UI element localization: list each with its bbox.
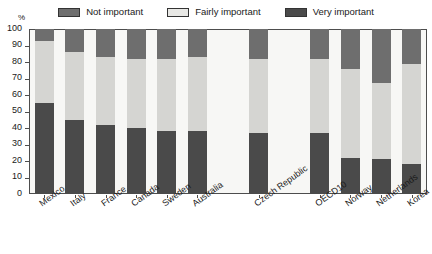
bar-group[interactable] — [157, 29, 176, 194]
bar-group[interactable] — [188, 29, 207, 194]
bar-segment-not-important[interactable] — [341, 29, 360, 69]
bar-segment-fairly-important[interactable] — [402, 64, 421, 165]
bar-segment-very-important[interactable] — [127, 128, 146, 194]
bar-segment-not-important[interactable] — [96, 29, 115, 57]
legend-swatch-not-important — [58, 8, 80, 17]
bar-segment-fairly-important[interactable] — [65, 52, 84, 120]
bar-segment-very-important[interactable] — [249, 133, 268, 194]
bar-group[interactable] — [402, 29, 421, 194]
bar-segment-very-important[interactable] — [157, 131, 176, 194]
bar-stack — [157, 29, 176, 194]
y-axis-unit-label: % — [18, 14, 25, 22]
y-tick-label: 80 — [12, 57, 22, 66]
bar-stack — [372, 29, 391, 194]
bar-segment-fairly-important[interactable] — [35, 41, 54, 104]
bar-group[interactable] — [341, 29, 360, 194]
bar-group[interactable] — [127, 29, 146, 194]
bar-group[interactable] — [65, 29, 84, 194]
bar-stack — [35, 29, 54, 194]
bar-segment-fairly-important[interactable] — [188, 57, 207, 131]
y-tick-label: 70 — [12, 73, 22, 82]
y-tick-label: 60 — [12, 90, 22, 99]
bar-segment-not-important[interactable] — [65, 29, 84, 52]
bar-segment-not-important[interactable] — [35, 29, 54, 41]
bar-segment-not-important[interactable] — [127, 29, 146, 59]
y-tick-label: 10 — [12, 172, 22, 181]
y-tick-label: 90 — [12, 40, 22, 49]
bar-segment-fairly-important[interactable] — [310, 59, 329, 133]
bar-group[interactable] — [372, 29, 391, 194]
bar-segment-fairly-important[interactable] — [96, 57, 115, 125]
bar-segment-not-important[interactable] — [402, 29, 421, 64]
bar-segment-not-important[interactable] — [157, 29, 176, 59]
bar-stack — [402, 29, 421, 194]
bar-segment-very-important[interactable] — [310, 133, 329, 194]
bar-stack — [310, 29, 329, 194]
bar-stack — [249, 29, 268, 194]
bar-segment-fairly-important[interactable] — [372, 83, 391, 159]
bar-segment-fairly-important[interactable] — [157, 59, 176, 132]
bar-group[interactable] — [96, 29, 115, 194]
bar-group[interactable] — [249, 29, 268, 194]
chart-legend: Not important Fairly important Very impo… — [0, 4, 432, 20]
legend-label-fairly-important: Fairly important — [195, 7, 260, 17]
y-tick-label: 20 — [12, 156, 22, 165]
y-tick-label: 0 — [17, 189, 22, 198]
y-tick-label: 40 — [12, 123, 22, 132]
y-tick-label: 50 — [12, 106, 22, 115]
bar-segment-very-important[interactable] — [35, 103, 54, 194]
legend-swatch-very-important — [285, 8, 307, 17]
y-tick-mark — [25, 194, 29, 195]
legend-item-fairly-important[interactable]: Fairly important — [167, 7, 260, 17]
bar-segment-not-important[interactable] — [372, 29, 391, 83]
bar-segment-fairly-important[interactable] — [127, 59, 146, 128]
bar-segment-fairly-important[interactable] — [341, 69, 360, 158]
bar-segment-very-important[interactable] — [65, 120, 84, 194]
bar-segment-not-important[interactable] — [249, 29, 268, 59]
bar-segment-very-important[interactable] — [188, 131, 207, 194]
bar-stack — [341, 29, 360, 194]
y-tick-label: 30 — [12, 139, 22, 148]
legend-label-very-important: Very important — [313, 7, 374, 17]
bar-group[interactable] — [35, 29, 54, 194]
bar-stack — [65, 29, 84, 194]
legend-swatch-fairly-important — [167, 8, 189, 17]
y-tick-label: 100 — [7, 24, 22, 33]
bar-stack — [96, 29, 115, 194]
legend-item-not-important[interactable]: Not important — [58, 7, 143, 17]
bar-group[interactable] — [310, 29, 329, 194]
bar-segment-fairly-important[interactable] — [249, 59, 268, 133]
legend-item-very-important[interactable]: Very important — [285, 7, 374, 17]
bar-segment-very-important[interactable] — [372, 159, 391, 194]
stacked-bar-chart: Not important Fairly important Very impo… — [0, 0, 432, 254]
bar-segment-not-important[interactable] — [310, 29, 329, 59]
bar-stack — [188, 29, 207, 194]
bars-layer — [29, 29, 427, 194]
bar-segment-very-important[interactable] — [96, 125, 115, 194]
bar-segment-not-important[interactable] — [188, 29, 207, 57]
legend-label-not-important: Not important — [86, 7, 143, 17]
bar-stack — [127, 29, 146, 194]
